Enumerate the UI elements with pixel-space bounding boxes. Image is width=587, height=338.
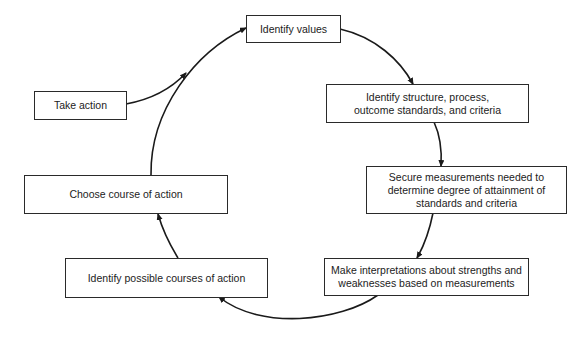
node-label: Make interpretations about strengths and… bbox=[331, 264, 522, 290]
node-label: Secure measurements needed to determine … bbox=[388, 171, 546, 210]
node-label: Identify structure, process, outcome sta… bbox=[354, 91, 501, 117]
node-identify-standards: Identify structure, process, outcome sta… bbox=[326, 84, 529, 123]
node-secure-measurements: Secure measurements needed to determine … bbox=[366, 166, 567, 214]
arrow-measurements-to-interpretations bbox=[417, 213, 433, 258]
node-identify-values: Identify values bbox=[246, 15, 341, 43]
arrow-choose-to-values bbox=[151, 28, 246, 175]
node-label: Choose course of action bbox=[69, 188, 182, 201]
node-make-interpretations: Make interpretations about strengths and… bbox=[324, 258, 529, 296]
node-label: Take action bbox=[54, 99, 107, 112]
arrow-interpretations-to-courses bbox=[219, 295, 378, 319]
node-label: Identify values bbox=[260, 23, 327, 36]
node-label: Identify possible courses of action bbox=[88, 272, 246, 285]
arrow-standards-to-measurements bbox=[434, 122, 441, 166]
arrow-courses-to-choose bbox=[158, 214, 178, 258]
node-identify-courses: Identify possible courses of action bbox=[65, 258, 268, 298]
evaluation-cycle-diagram: Identify values Identify structure, proc… bbox=[0, 0, 587, 338]
node-take-action: Take action bbox=[34, 91, 127, 120]
arrow-values-to-standards bbox=[340, 29, 413, 84]
node-choose-course: Choose course of action bbox=[24, 175, 228, 214]
